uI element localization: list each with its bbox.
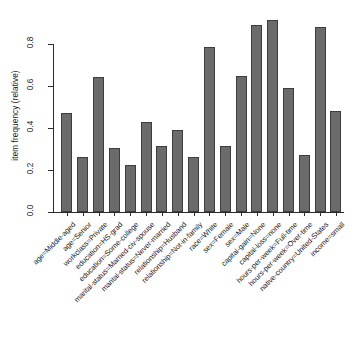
bar-slot (122, 14, 138, 212)
y-axis-tick (48, 128, 53, 129)
y-axis-line (53, 44, 54, 212)
bar-slot (249, 14, 265, 212)
bar-slot (75, 14, 91, 212)
bar (251, 25, 262, 212)
y-axis-tick (48, 170, 53, 171)
bar (267, 20, 278, 212)
bar-slot (59, 14, 75, 212)
y-axis-tick-label: 0.2 (16, 164, 46, 173)
y-axis-tick (48, 44, 53, 45)
y-axis-tick-label: 0.4 (16, 122, 46, 131)
y-axis-tick (48, 86, 53, 87)
y-axis-tick-label: 0.0 (16, 206, 46, 215)
y-axis-tick-label: 0.8 (16, 38, 46, 47)
bar-slot (91, 14, 107, 212)
bar (61, 113, 72, 212)
x-axis-labels: age=Middle-agedage=Seniorworkclass=Priva… (0, 216, 358, 347)
y-axis-tick-label: 0.6 (16, 80, 46, 89)
bar-slot (281, 14, 297, 212)
y-axis-title: item frequency (relative) (6, 0, 24, 230)
bar-chart: item frequency (relative) 0.00.20.40.60.… (0, 0, 358, 347)
bar-slot (265, 14, 281, 212)
